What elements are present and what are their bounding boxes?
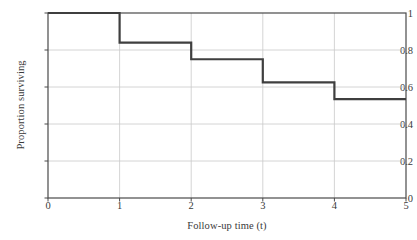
horizontal-gridlines bbox=[48, 50, 406, 161]
plot-area bbox=[0, 0, 417, 240]
survival-chart-figure: Proportion surviving 1 0.8 0.6 0.4 0.2 0… bbox=[0, 0, 417, 240]
vertical-gridlines bbox=[120, 13, 335, 198]
survival-step-curve bbox=[48, 13, 406, 99]
plot-border bbox=[48, 13, 406, 198]
axis-tick-marks bbox=[45, 13, 407, 202]
